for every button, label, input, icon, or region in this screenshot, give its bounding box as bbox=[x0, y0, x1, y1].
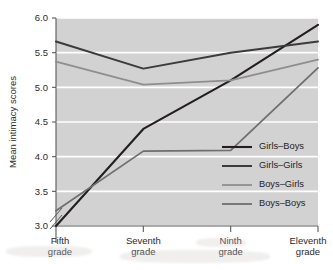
legend-label: Boys–Boys bbox=[259, 198, 306, 208]
x-axis bbox=[56, 226, 318, 232]
line-chart: 3.03.54.04.55.05.56.0 FifthgradeSeventhg… bbox=[0, 0, 333, 270]
y-axis-tick-label: 4.5 bbox=[35, 116, 48, 127]
y-axis-tick-label: 5.0 bbox=[35, 82, 48, 93]
x-axis-category-label: Fifth bbox=[51, 235, 69, 246]
x-axis-category-label: Eleventh bbox=[290, 235, 327, 246]
y-axis-tick-label: 3.0 bbox=[35, 220, 48, 231]
x-axis-category-label: Seventh bbox=[126, 235, 161, 246]
x-axis-category-label: grade bbox=[48, 246, 72, 257]
x-axis-category-labels: FifthgradeSeventhgradeNinthgradeEleventh… bbox=[48, 235, 327, 257]
legend-label: Girls–Girls bbox=[259, 160, 303, 170]
y-tick-labels: 3.03.54.04.55.05.56.0 bbox=[35, 12, 48, 231]
y-axis-tick-label: 6.0 bbox=[35, 12, 48, 23]
x-axis-category-label: grade bbox=[131, 246, 155, 257]
x-axis-category-label: grade bbox=[296, 246, 320, 257]
y-axis-title: Mean intimacy scores bbox=[7, 76, 18, 168]
chart-figure: 3.03.54.04.55.05.56.0 FifthgradeSeventhg… bbox=[0, 0, 333, 270]
legend-label: Boys–Girls bbox=[259, 179, 304, 189]
y-axis-tick-label: 5.5 bbox=[35, 47, 48, 58]
y-axis bbox=[52, 18, 56, 243]
y-axis-tick-label: 4.0 bbox=[35, 151, 48, 162]
x-axis-category-label: Ninth bbox=[220, 235, 242, 246]
x-axis-category-label: grade bbox=[219, 246, 243, 257]
y-axis-tick-label: 3.5 bbox=[35, 186, 48, 197]
legend-label: Girls–Boys bbox=[259, 141, 304, 151]
